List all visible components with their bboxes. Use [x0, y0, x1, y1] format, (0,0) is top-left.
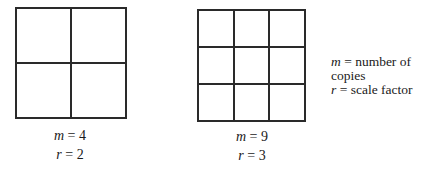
- grid-cell: [269, 84, 305, 121]
- grid-cell: [16, 63, 71, 118]
- grid-cell: [198, 10, 234, 47]
- grid-cell: [16, 8, 71, 63]
- right-r-label: r = 3: [238, 148, 265, 164]
- grid-cell: [71, 63, 126, 118]
- right-m-label: m = 9: [236, 129, 268, 145]
- legend: m = number of copies r = scale factor: [331, 55, 448, 97]
- grid-cell: [234, 47, 270, 84]
- grid-cell: [234, 10, 270, 47]
- grid-cell: [269, 47, 305, 84]
- square-3x3: [197, 9, 306, 122]
- grid-cell: [198, 47, 234, 84]
- grid-cell: [198, 84, 234, 121]
- legend-item-m: m = number of copies: [331, 55, 448, 83]
- legend-item-r: r = scale factor: [331, 83, 448, 97]
- grid-cell: [234, 84, 270, 121]
- grid-cell: [269, 10, 305, 47]
- left-m-label: m = 4: [54, 128, 86, 144]
- left-r-label: r = 2: [56, 147, 83, 163]
- grid-cell: [71, 8, 126, 63]
- square-2x2: [15, 7, 127, 119]
